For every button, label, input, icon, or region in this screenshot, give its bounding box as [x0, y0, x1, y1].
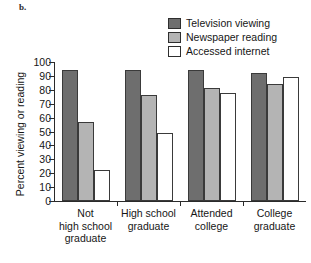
y-axis-tick-mark: [49, 173, 54, 174]
y-axis-tick-mark: [49, 118, 54, 119]
y-axis-tick-mark: [49, 132, 54, 133]
bar: [125, 70, 141, 201]
bar: [188, 70, 204, 201]
x-axis-group-tick: [180, 202, 181, 206]
y-axis-tick-mark: [49, 90, 54, 91]
bar: [283, 77, 299, 201]
x-axis-category-label-line: high school: [54, 220, 117, 233]
x-axis-category-label-line: College: [243, 207, 306, 220]
x-axis-category-label-line: graduate: [54, 232, 117, 245]
x-axis-category-label: High schoolgraduate: [117, 207, 180, 232]
x-axis-category-label-line: High school: [117, 207, 180, 220]
x-axis-category-label: Collegegraduate: [243, 207, 306, 232]
y-axis-tick-mark: [49, 145, 54, 146]
bar: [157, 133, 173, 201]
y-axis-tick-mark: [49, 104, 54, 105]
x-axis-group-tick: [117, 202, 118, 206]
x-axis-group-tick: [243, 202, 244, 206]
x-axis-category-labels: Nothigh schoolgraduateHigh schoolgraduat…: [54, 207, 306, 263]
bar: [78, 122, 94, 201]
y-axis-tick-mark: [49, 159, 54, 160]
y-axis-tick-mark: [49, 201, 54, 202]
bar: [220, 93, 236, 201]
x-axis-category-label: Attendedcollege: [180, 207, 243, 232]
x-axis-category-label-line: Not: [54, 207, 117, 220]
y-axis-tick-mark: [49, 62, 54, 63]
bar: [204, 88, 220, 201]
bar: [94, 170, 110, 201]
y-axis-tick-mark: [49, 187, 54, 188]
y-axis-tick-mark: [49, 76, 54, 77]
chart-plot-area: Percent viewing or reading 1009080706050…: [0, 0, 311, 263]
x-axis-category-label-line: college: [180, 220, 243, 233]
bar: [251, 73, 267, 201]
x-axis-category-label: Nothigh schoolgraduate: [54, 207, 117, 245]
x-axis-category-label-line: graduate: [117, 220, 180, 233]
bar: [267, 84, 283, 201]
x-axis-category-label-line: Attended: [180, 207, 243, 220]
bar: [141, 95, 157, 201]
bar: [62, 70, 78, 201]
x-axis-category-label-line: graduate: [243, 220, 306, 233]
